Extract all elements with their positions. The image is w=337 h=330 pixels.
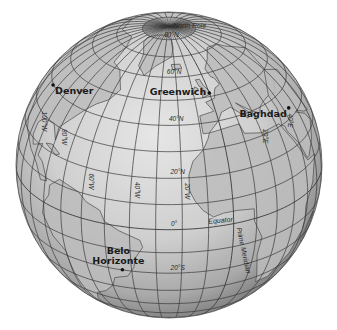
latitude-label-80N: 80°N [164,31,179,38]
north-pole-shading [147,3,191,13]
globe-canvas: North Pole80°N60°N40°N20°N0°20°S100°W80°… [0,0,337,330]
latitude-label-20N: 20°N [169,168,185,175]
city-dot-belo-horizonte [121,268,125,272]
latitude-label-40N: 40°N [169,115,184,122]
city-dot-baghdad [287,106,291,110]
north-pole-label: North Pole [173,22,206,29]
latitude-label-60N: 60°N [167,68,182,75]
city-label-belo-horizonte-line2: Horizonte [92,255,144,266]
longitude-label-40E: 40°E [287,113,294,128]
longitude-label-80W: 80°W [61,129,68,146]
latitude-label-0: 0° [171,220,178,227]
latitude-label-20S: 20°S [170,264,186,271]
city-label-greenwich: Greenwich [150,86,207,97]
city-label-baghdad: Baghdad [239,108,286,119]
longitude-label-40W: 40°W [134,182,141,199]
city-dot-denver [51,83,55,87]
longitude-label-20W: 20°W [184,182,191,200]
city-dot-greenwich [207,91,211,95]
longitude-label-20E: 20°E [262,128,269,144]
longitude-label-100W: 100°W [41,112,48,132]
longitude-label-60W: 60°W [88,173,95,190]
globe-map: North Pole80°N60°N40°N20°N0°20°S100°W80°… [0,0,337,330]
city-label-denver: Denver [55,85,94,96]
